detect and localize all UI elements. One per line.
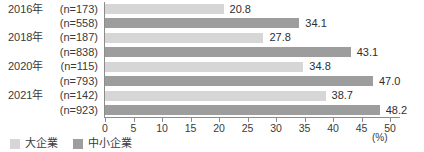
n-count-label: (n=838) (50, 47, 98, 58)
x-tick-label: 0 (95, 123, 115, 134)
value-label: 20.8 (230, 4, 251, 15)
x-tick-label: 30 (266, 123, 286, 134)
bar-大企業 (105, 62, 303, 72)
value-label: 43.1 (357, 47, 378, 58)
value-label: 34.8 (309, 61, 330, 72)
axis-unit-label: (%) (372, 132, 388, 143)
bar-中小企業 (105, 47, 351, 57)
value-label: 27.8 (269, 32, 290, 43)
n-count-label: (n=142) (50, 90, 98, 101)
x-tick-label: 5 (124, 123, 144, 134)
x-tick-label: 20 (209, 123, 229, 134)
bar-中小企業 (105, 105, 380, 115)
legend-item: 中小企業 (73, 138, 132, 149)
n-count-label: (n=558) (50, 18, 98, 29)
legend-swatch (73, 139, 83, 149)
year-label: 2018年 (8, 32, 52, 43)
x-tick-label: 45 (352, 123, 372, 134)
bar-大企業 (105, 4, 224, 14)
n-count-label: (n=173) (50, 4, 98, 15)
legend-label: 大企業 (25, 138, 58, 149)
value-label: 38.7 (332, 90, 353, 101)
n-count-label: (n=115) (50, 61, 98, 72)
year-label: 2021年 (8, 90, 52, 101)
bar-大企業 (105, 91, 326, 101)
x-tick-label: 15 (181, 123, 201, 134)
year-label: 2020年 (8, 61, 52, 72)
legend: 大企業中小企業 (10, 138, 132, 149)
bar-中小企業 (105, 18, 299, 28)
year-label: 2016年 (8, 4, 52, 15)
value-label: 34.1 (305, 18, 326, 29)
legend-swatch (10, 139, 20, 149)
n-count-label: (n=187) (50, 32, 98, 43)
n-count-label: (n=923) (50, 105, 98, 116)
x-tick-label: 10 (152, 123, 172, 134)
grouped-bar-chart: 2016年(n=173)20.8(n=558)34.12018年(n=187)2… (0, 0, 424, 152)
x-tick-label: 25 (238, 123, 258, 134)
value-label: 48.2 (386, 105, 407, 116)
n-count-label: (n=793) (50, 76, 98, 87)
bar-中小企業 (105, 76, 373, 86)
bar-大企業 (105, 33, 263, 43)
legend-label: 中小企業 (88, 138, 132, 149)
y-axis-line (104, 2, 105, 118)
x-axis-line (104, 117, 400, 118)
value-label: 47.0 (379, 76, 400, 87)
legend-item: 大企業 (10, 138, 58, 149)
x-tick-label: 35 (295, 123, 315, 134)
x-tick-label: 40 (323, 123, 343, 134)
